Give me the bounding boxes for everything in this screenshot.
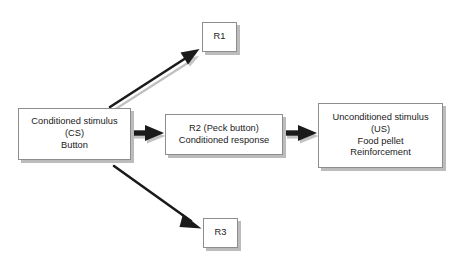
node-unconditioned-stimulus[interactable]: Unconditioned stimulus (US) Food pellet … bbox=[318, 103, 443, 168]
arrow-cs-to-r2 bbox=[131, 125, 166, 144]
node-r1-label: R1 bbox=[214, 31, 226, 43]
node-r1[interactable]: R1 bbox=[202, 22, 237, 52]
node-r2-line-2: Conditioned response bbox=[179, 135, 269, 147]
node-us-line-2: (US) bbox=[371, 124, 390, 136]
node-cs-line-1: Conditioned stimulus bbox=[31, 116, 117, 128]
arrow-cs-to-r3 bbox=[114, 166, 202, 229]
node-r3[interactable]: R3 bbox=[203, 218, 238, 248]
node-r2-peck-button[interactable]: R2 (Peck button) Conditioned response bbox=[165, 114, 283, 155]
arrow-cs-to-r3-shaft bbox=[114, 166, 191, 221]
diagram-canvas: Conditioned stimulus (CS) Button R2 (Pec… bbox=[0, 0, 459, 267]
node-cs-line-2: (CS) bbox=[65, 128, 84, 140]
node-cs-line-3: Button bbox=[61, 140, 88, 152]
arrow-cs-to-r1 bbox=[110, 49, 200, 110]
arrow-r2-to-us bbox=[285, 125, 319, 144]
arrow-cs-to-r1-shadow-shaft bbox=[114, 59, 194, 110]
node-conditioned-stimulus[interactable]: Conditioned stimulus (CS) Button bbox=[18, 108, 131, 160]
node-us-line-1: Unconditioned stimulus bbox=[332, 112, 428, 124]
node-us-line-3: Food pellet bbox=[358, 136, 404, 148]
node-us-line-4: Reinforcement bbox=[350, 147, 410, 159]
arrow-cs-to-r3-head bbox=[180, 214, 202, 229]
node-r2-line-1: R2 (Peck button) bbox=[189, 123, 259, 135]
node-r3-label: R3 bbox=[215, 227, 227, 239]
arrow-cs-to-r1-shaft bbox=[110, 56, 189, 107]
